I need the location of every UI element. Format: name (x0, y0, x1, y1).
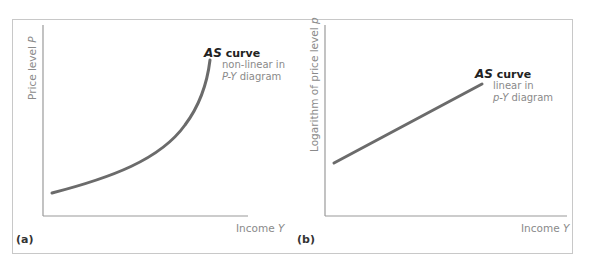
x-axis-label-a: Income Y (236, 222, 284, 234)
as-curve-title-a: AS curve (204, 46, 260, 60)
panel-tag-a: (a) (16, 233, 33, 246)
as-curve-desc-a: non-linear inP-Y diagram (222, 59, 285, 83)
panel-b-axes (325, 25, 567, 216)
as-line-b (334, 84, 482, 163)
panel-tag-b: (b) (297, 233, 315, 246)
y-axis-label-b: Logarithm of price level p (308, 17, 320, 152)
y-axis-label-a: Price level P (26, 36, 38, 100)
x-axis-label-b: Income Y (521, 222, 569, 234)
chart-canvas (0, 0, 589, 267)
as-curve-desc-b: linear inp-Y diagram (493, 80, 553, 104)
as-curve-title-b: AS curve (475, 67, 531, 81)
as-curve-a (52, 60, 210, 193)
